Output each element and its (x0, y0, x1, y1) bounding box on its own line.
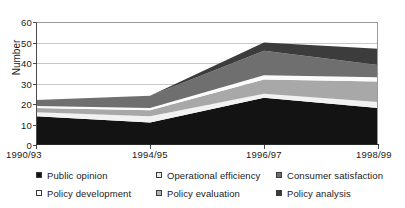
legend-swatch-icon (156, 190, 162, 196)
legend-item-policy-development[interactable]: Policy development (36, 188, 156, 199)
plot-area (36, 22, 378, 145)
plot-border (36, 22, 378, 145)
legend-swatch-icon (36, 190, 42, 196)
legend-item-policy-evaluation[interactable]: Policy evaluation (156, 188, 276, 199)
chart-figure: 60 50 40 30 20 10 0 Number 1990/93 1994/… (0, 0, 405, 208)
legend-swatch-icon (276, 172, 282, 178)
legend-label: Consumer satisfaction (287, 170, 383, 181)
legend-item-public-opinion[interactable]: Public opinion (36, 170, 156, 181)
y-axis-title: Number (11, 18, 22, 98)
legend-swatch-icon (36, 172, 42, 178)
legend-swatch-icon (276, 190, 282, 196)
y-axis: 60 50 40 30 20 10 0 Number (0, 0, 32, 167)
x-tick-label: 1998/99 (356, 149, 392, 160)
legend-label: Policy analysis (287, 188, 351, 199)
y-tick-label: 10 (21, 119, 32, 130)
y-tick-label: 60 (21, 17, 32, 28)
legend-swatch-icon (156, 172, 162, 178)
x-tick-label: 1994/95 (132, 149, 168, 160)
legend-label: Public opinion (47, 170, 108, 181)
legend: Public opinion Operational efficiency Co… (36, 166, 396, 202)
y-tick-label: 30 (21, 78, 32, 89)
x-axis-line (36, 144, 379, 145)
legend-label: Policy evaluation (167, 188, 240, 199)
y-tick-label: 50 (21, 37, 32, 48)
legend-item-consumer-satisfaction[interactable]: Consumer satisfaction (276, 170, 396, 181)
y-tick-label: 20 (21, 99, 32, 110)
legend-item-operational-efficiency[interactable]: Operational efficiency (156, 170, 276, 181)
legend-item-policy-analysis[interactable]: Policy analysis (276, 188, 396, 199)
legend-label: Policy development (47, 188, 131, 199)
legend-label: Operational efficiency (167, 170, 260, 181)
y-tick-label: 40 (21, 58, 32, 69)
x-tick-label: 1990/93 (6, 149, 42, 160)
x-tick-label: 1996/97 (246, 149, 282, 160)
